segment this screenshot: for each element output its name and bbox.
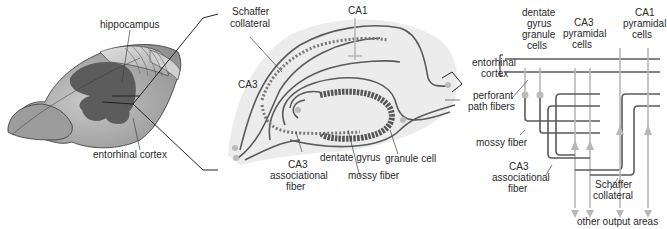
- label-dentate-gyrus: dentate gyrus: [320, 152, 381, 163]
- label-circuit-ca3-assoc-1: CA3: [509, 161, 529, 172]
- label-circuit-ca3-assoc-2: associational: [492, 172, 550, 183]
- label-entorhinal-2: cortex: [481, 68, 508, 79]
- brain-illustration: [8, 14, 218, 170]
- label-dg-3: granule: [522, 29, 556, 40]
- label-ca3-assoc-3: fiber: [286, 181, 306, 192]
- label-mossy-fiber: mossy fiber: [348, 170, 400, 181]
- label-perforant-1: perforant: [473, 90, 513, 101]
- label-dg-1: dentate: [522, 7, 556, 18]
- label-ca3-assoc-2: associational: [270, 170, 328, 181]
- label-other-output-areas: other output areas: [577, 216, 658, 227]
- label-circuit-schaffer-1: Schaffer: [595, 179, 633, 190]
- label-ca1-3: cells: [632, 29, 652, 40]
- label-ca1: CA1: [348, 5, 368, 16]
- label-ca3-1: CA3: [574, 17, 594, 28]
- hippocampus-diagram: hippocampus entorhinal cortex: [0, 0, 667, 229]
- label-ca3-assoc-1: CA3: [288, 159, 308, 170]
- label-circuit-schaffer-2: collateral: [593, 190, 633, 201]
- label-hippocampus: hippocampus: [100, 19, 159, 30]
- label-ca3-2: pyramidal: [563, 28, 606, 39]
- label-circuit-mossy-fiber: mossy fiber: [476, 137, 528, 148]
- label-circuit-ca3-assoc-3: fiber: [508, 183, 528, 194]
- label-schaffer-1: Schaffer: [232, 6, 270, 17]
- label-dg-4: cells: [527, 40, 547, 51]
- label-ca3: CA3: [238, 79, 258, 90]
- label-schaffer-2: collateral: [230, 18, 270, 29]
- label-ca1-1: CA1: [635, 7, 655, 18]
- label-entorhinal-cortex: entorhinal cortex: [93, 149, 167, 160]
- label-ca1-2: pyramidal: [623, 18, 666, 29]
- label-granule-cell: granule cell: [385, 153, 436, 164]
- label-ca3-3: cells: [572, 39, 592, 50]
- label-perforant-2: path fibers: [468, 101, 515, 112]
- label-dg-2: gyrus: [527, 18, 551, 29]
